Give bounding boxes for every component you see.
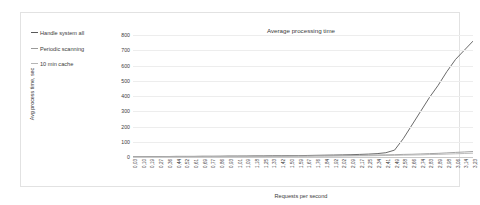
x-axis-tick-label: 2,89 — [438, 159, 443, 168]
x-axis-tick-label: 0,19 — [150, 159, 155, 168]
x-axis-tick-label: 1,67 — [307, 159, 312, 168]
x-axis-ticks: 0,030,100,190,270,360,440,520,610,690,77… — [133, 159, 473, 193]
x-axis-tick-label: 2,66 — [412, 159, 417, 168]
x-axis-tick-label: 2,34 — [377, 159, 382, 168]
x-axis-tick-label: 1,01 — [238, 159, 243, 168]
x-axis-tick-label: 1,84 — [325, 159, 330, 168]
x-axis-tick-label: 1,18 — [255, 159, 260, 168]
x-axis-tick-label: 2,58 — [403, 159, 408, 168]
x-axis-tick-label: 2,83 — [429, 159, 434, 168]
y-axis-tick-label: 0 — [108, 154, 130, 160]
chart-title: Average processing time — [151, 27, 451, 34]
x-axis-tick-label: 1,50 — [290, 159, 295, 168]
x-axis-tick-label: 1,59 — [299, 159, 304, 168]
x-axis-tick-label: 1,09 — [246, 159, 251, 168]
legend-item-10-min-cache[interactable]: 10 min cache — [31, 60, 109, 68]
legend-label: 10 min cache — [40, 60, 73, 68]
x-axis-tick-label: 3,23 — [473, 159, 478, 168]
x-axis-tick-label: 0,27 — [159, 159, 164, 168]
x-axis-tick-label: 0,10 — [142, 159, 147, 168]
x-axis-tick-label: 1,76 — [316, 159, 321, 168]
gridline — [133, 127, 473, 128]
x-axis-tick-label: 2,98 — [447, 159, 452, 168]
x-axis-tick-label: 2,41 — [386, 159, 391, 168]
y-axis-tick-label: 700 — [108, 47, 130, 53]
chart-legend: Handle system all Periodic scanning 10 m… — [31, 29, 109, 76]
legend-label: Handle system all — [40, 29, 84, 37]
x-axis-tick-label: 1,42 — [281, 159, 286, 168]
gridline — [133, 50, 473, 51]
gridline — [133, 81, 473, 82]
x-axis-tick-label: 0,52 — [185, 159, 190, 168]
legend-swatch-icon — [31, 48, 38, 49]
legend-item-periodic-scanning[interactable]: Periodic scanning — [31, 45, 109, 53]
x-axis-tick-label: 1,25 — [264, 159, 269, 168]
y-axis-tick-label: 400 — [108, 93, 130, 99]
legend-item-handle-system-all[interactable]: Handle system all — [31, 29, 109, 37]
x-axis-tick-label: 0,03 — [133, 159, 138, 168]
x-axis-tick-label: 2,17 — [360, 159, 365, 168]
legend-swatch-icon — [31, 32, 38, 33]
y-axis-tick-label: 100 — [108, 139, 130, 145]
x-axis-tick-label: 3,14 — [464, 159, 469, 168]
y-axis-tick-label: 600 — [108, 63, 130, 69]
y-axis-tick-label: 500 — [108, 78, 130, 84]
x-axis-title: Requests per second — [181, 193, 421, 199]
x-axis-tick-label: 0,86 — [220, 159, 225, 168]
chart-container: Handle system all Periodic scanning 10 m… — [20, 12, 460, 187]
y-axis-tick-label: 800 — [108, 32, 130, 38]
x-axis-tick-label: 1,92 — [334, 159, 339, 168]
gridline — [133, 111, 473, 112]
series-line — [133, 41, 473, 157]
gridline — [133, 66, 473, 67]
x-axis-tick-label: 0,77 — [211, 159, 216, 168]
x-axis-tick-label: 2,02 — [342, 159, 347, 168]
gridline — [133, 142, 473, 143]
x-axis-tick-label: 0,61 — [194, 159, 199, 168]
x-axis-tick-label: 2,74 — [421, 159, 426, 168]
gridline — [133, 96, 473, 97]
x-axis-tick-label: 0,93 — [229, 159, 234, 168]
x-axis-tick-label: 0,69 — [203, 159, 208, 168]
x-axis-tick-label: 3,06 — [456, 159, 461, 168]
plot-area: 0100200300400500600700800 — [133, 35, 473, 157]
y-axis-title: Avg process time, sec — [29, 62, 35, 126]
x-axis-tick-label: 0,36 — [168, 159, 173, 168]
x-axis-tick-label: 0,44 — [177, 159, 182, 168]
y-axis-tick-label: 200 — [108, 124, 130, 130]
x-axis-line — [133, 157, 473, 158]
gridline — [133, 35, 473, 36]
x-axis-tick-label: 2,09 — [351, 159, 356, 168]
x-axis-tick-label: 1,33 — [272, 159, 277, 168]
x-axis-tick-label: 2,49 — [395, 159, 400, 168]
y-axis-tick-label: 300 — [108, 108, 130, 114]
x-axis-tick-label: 2,25 — [368, 159, 373, 168]
legend-label: Periodic scanning — [40, 45, 84, 53]
